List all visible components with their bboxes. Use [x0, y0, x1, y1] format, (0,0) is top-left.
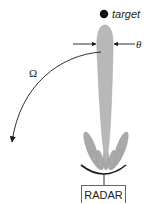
scan-rate-label: Ω: [29, 67, 37, 79]
radar-box: RADAR: [82, 186, 126, 204]
target-label: target: [112, 8, 141, 20]
scan-arc-arrow: [12, 52, 101, 142]
radar-scan-diagram: target θ Ω RADAR: [0, 0, 147, 203]
main-beam: [97, 25, 113, 164]
beamwidth-label: θ: [136, 38, 142, 50]
target-dot-icon: [100, 10, 108, 18]
radar-label: RADAR: [84, 189, 123, 201]
target-marker: target: [100, 8, 141, 20]
